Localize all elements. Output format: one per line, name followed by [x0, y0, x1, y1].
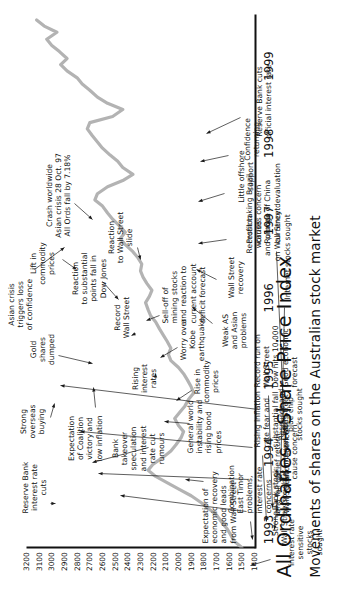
y-axis-tick-1700: 1700	[211, 552, 220, 586]
y-axis-tick-2800: 2800	[72, 552, 81, 586]
y-axis-tick-2200: 2200	[148, 552, 157, 586]
annotation-reaction-to-substantial-points-fall: Reaction to substantial points fall in D…	[70, 243, 107, 313]
annotation-asian-crisis-triggers-loss: Asian crisis triggers loss of confidence	[6, 273, 34, 335]
annotation-weak-as-and-asian-problems: Weak AS and Asian problems	[220, 305, 248, 355]
y-axis-tick-1600: 1600	[224, 552, 233, 586]
annotation-strong-overseas-buying: Strong overseas buying	[18, 393, 46, 449]
y-axis-tick-1400: 1400	[249, 552, 258, 586]
annotation-profit-taking-brazil: Profit taking Brazil causes concern Rumo…	[244, 147, 281, 243]
y-axis-tick-1900: 1900	[186, 552, 195, 586]
y-axis-tick-3000: 3000	[46, 552, 55, 586]
annotation-rising-interest-rates: Rising interest rates	[130, 355, 158, 401]
y-axis-tick-2600: 2600	[97, 552, 106, 586]
y-axis-tick-3100: 3100	[34, 552, 43, 586]
annotation-reserve-bank-interest-rate-cuts: Reserve Bank interest rate cuts	[20, 451, 48, 523]
annotation-reserve-bank-cuts-official: Reserve Bank cuts official interest rate	[254, 59, 272, 143]
share-price-index-figure: Movements of shares on the Australian st…	[0, 0, 361, 599]
annotation-bank-takeover-speculation: Bank takeover speculation and interest r…	[110, 417, 165, 479]
y-axis-tick-2700: 2700	[84, 552, 93, 586]
annotation-expectation-coalition-victory: Expectation of Coalition victory and low…	[66, 405, 103, 471]
annotation-interest-rate-sensitive-stocks: interest rate sensitive stocks sought	[286, 507, 323, 577]
annotation-reaction-to-wall-street-slide: Reaction to Wall Street slide	[106, 205, 134, 269]
annotation-internet-stocks-sought: Internet stocks sought	[282, 195, 291, 299]
y-axis-tick-2900: 2900	[59, 552, 68, 586]
annotation-record-run-on-wall-street: Record run on Wall Street Dow hits 10 00…	[252, 311, 298, 387]
y-axis-tick-3200: 3200	[21, 552, 30, 586]
rotated-figure-frame: Movements of shares on the Australian st…	[0, 0, 361, 599]
annotation-sell-off-of-mining-stocks: Sell-off of mining stocks and reaction t…	[160, 251, 206, 323]
y-axis-tick-2100: 2100	[160, 552, 169, 586]
annotation-record-wall-street: Record Wall Street	[112, 291, 130, 343]
y-axis-tick-1800: 1800	[198, 552, 207, 586]
y-axis-tick-2500: 2500	[110, 552, 119, 586]
y-axis-tick-2000: 2000	[173, 552, 182, 586]
y-axis-tick-2300: 2300	[135, 552, 144, 586]
y-axis-tick-2400: 2400	[122, 552, 131, 586]
y-axis-tick-1500: 1500	[236, 552, 245, 586]
annotation-wall-street-recovery: Wall Street recovery	[226, 251, 244, 303]
annotation-crash-worldwide: Crash worldwide Asian crisis 28 Oct. 97 …	[44, 147, 72, 243]
